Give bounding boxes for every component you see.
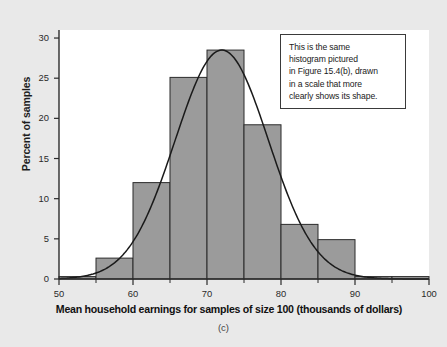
chart-area: 051015202530 5060708090100 Percent of sa… xyxy=(0,0,447,347)
histogram-bar xyxy=(281,224,318,279)
x-tick-label: 80 xyxy=(268,288,294,299)
annotation-callout: This is the samehistogram picturedin Fig… xyxy=(280,34,406,109)
x-tick-label: 50 xyxy=(46,288,72,299)
x-axis-title: Mean household earnings for samples of s… xyxy=(24,303,434,315)
y-axis-ticks xyxy=(54,38,59,279)
x-tick-label: 90 xyxy=(342,288,368,299)
x-tick-label: 70 xyxy=(194,288,220,299)
y-tick-label: 0 xyxy=(27,273,49,284)
histogram-bar xyxy=(96,258,133,279)
annotation-line: This is the same xyxy=(289,41,398,53)
histogram-bar xyxy=(133,183,170,279)
panel-caption: (c) xyxy=(0,322,447,333)
x-axis-ticks xyxy=(59,279,429,285)
y-tick-label: 30 xyxy=(27,32,49,43)
histogram-bar xyxy=(170,77,207,279)
histogram-bar xyxy=(207,50,244,279)
x-tick-label: 60 xyxy=(120,288,146,299)
y-axis-title: Percent of samples xyxy=(20,64,32,184)
annotation-line: in Figure 15.4(b), drawn xyxy=(289,65,398,77)
y-tick-label: 10 xyxy=(27,193,49,204)
figure-panel: 051015202530 5060708090100 Percent of sa… xyxy=(0,0,447,347)
y-tick-label: 5 xyxy=(27,233,49,244)
annotation-line: histogram pictured xyxy=(289,53,398,65)
x-tick-label: 100 xyxy=(416,288,442,299)
annotation-line: clearly shows its shape. xyxy=(289,90,398,102)
annotation-line: in a scale that more xyxy=(289,78,398,90)
histogram-bar xyxy=(244,125,281,279)
